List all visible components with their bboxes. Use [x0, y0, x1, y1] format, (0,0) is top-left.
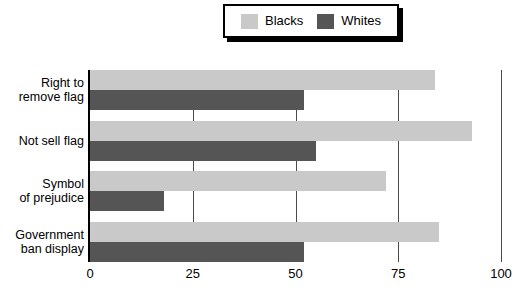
category-label-3: Governmentban display — [0, 228, 84, 256]
legend-entry-whites: Whites — [317, 14, 381, 29]
legend-swatch-blacks — [241, 14, 258, 29]
bar-blacks-0 — [90, 70, 435, 90]
bar-whites-1 — [90, 141, 316, 161]
category-label-line1: Not sell flag — [0, 134, 84, 148]
category-label-line1: Government — [0, 228, 84, 242]
category-label-line1: Symbol — [0, 177, 84, 191]
gridline-100 — [501, 70, 502, 262]
category-label-line2: of prejudice — [0, 191, 84, 205]
x-tick-label-0: 0 — [86, 266, 93, 281]
x-axis-tick-labels: 0255075100 — [0, 266, 523, 286]
x-tick-label-75: 75 — [391, 266, 405, 281]
chart-legend: Blacks Whites — [223, 4, 403, 42]
bar-whites-0 — [90, 90, 304, 110]
category-label-1: Not sell flag — [0, 134, 84, 148]
category-label-0: Right toremove flag — [0, 76, 84, 104]
legend-swatch-whites — [317, 14, 334, 29]
bar-whites-2 — [90, 191, 164, 211]
legend-label-blacks: Blacks — [265, 14, 303, 28]
y-axis-category-labels: Right toremove flagNot sell flagSymbolof… — [0, 70, 84, 262]
x-tick-label-50: 50 — [288, 266, 302, 281]
bar-blacks-1 — [90, 121, 472, 141]
category-label-line1: Right to — [0, 76, 84, 90]
bar-blacks-3 — [90, 222, 439, 242]
x-tick-label-25: 25 — [186, 266, 200, 281]
legend-box: Blacks Whites — [223, 4, 399, 38]
bar-whites-3 — [90, 242, 304, 262]
category-label-2: Symbolof prejudice — [0, 177, 84, 205]
legend-label-whites: Whites — [341, 14, 381, 28]
category-label-line2: remove flag — [0, 90, 84, 104]
category-label-line2: ban display — [0, 242, 84, 256]
x-tick-label-100: 100 — [490, 266, 512, 281]
legend-entry-blacks: Blacks — [241, 14, 303, 29]
bar-blacks-2 — [90, 171, 386, 191]
plot-area — [90, 70, 501, 262]
